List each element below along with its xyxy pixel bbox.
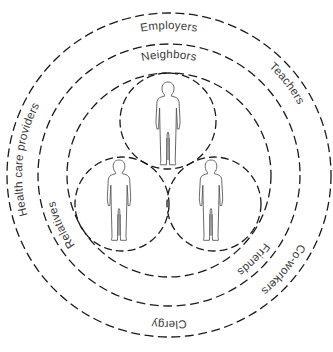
social-network-diagram: Employers Neighbors Teachers Health care… xyxy=(0,0,333,352)
person-icon xyxy=(107,160,130,240)
label-employers: Employers xyxy=(139,19,198,34)
diagram-canvas: Employers Neighbors Teachers Health care… xyxy=(0,0,333,352)
person-icon xyxy=(156,82,180,165)
label-clergy: Clergy xyxy=(151,318,187,331)
label-teachers: Teachers xyxy=(267,60,307,106)
person-icon xyxy=(199,160,222,240)
label-neighbors: Neighbors xyxy=(140,48,198,63)
outer-ring xyxy=(7,13,331,337)
label-friends: Friends xyxy=(235,241,272,278)
label-health-care-providers: Health care providers xyxy=(12,100,42,217)
